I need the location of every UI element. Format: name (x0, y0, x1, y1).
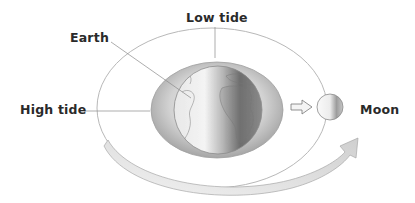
earth-leader (111, 42, 191, 98)
moon-label: Moon (360, 102, 399, 117)
low-tide-label: Low tide (186, 10, 248, 25)
earth-label: Earth (70, 30, 109, 45)
tides-diagram: Low tide Earth High tide Moon (0, 0, 415, 203)
high-tide-label: High tide (20, 102, 86, 117)
gravity-pull-arrow (291, 100, 312, 114)
earth-globe (174, 66, 262, 154)
moon-sphere (317, 94, 343, 120)
